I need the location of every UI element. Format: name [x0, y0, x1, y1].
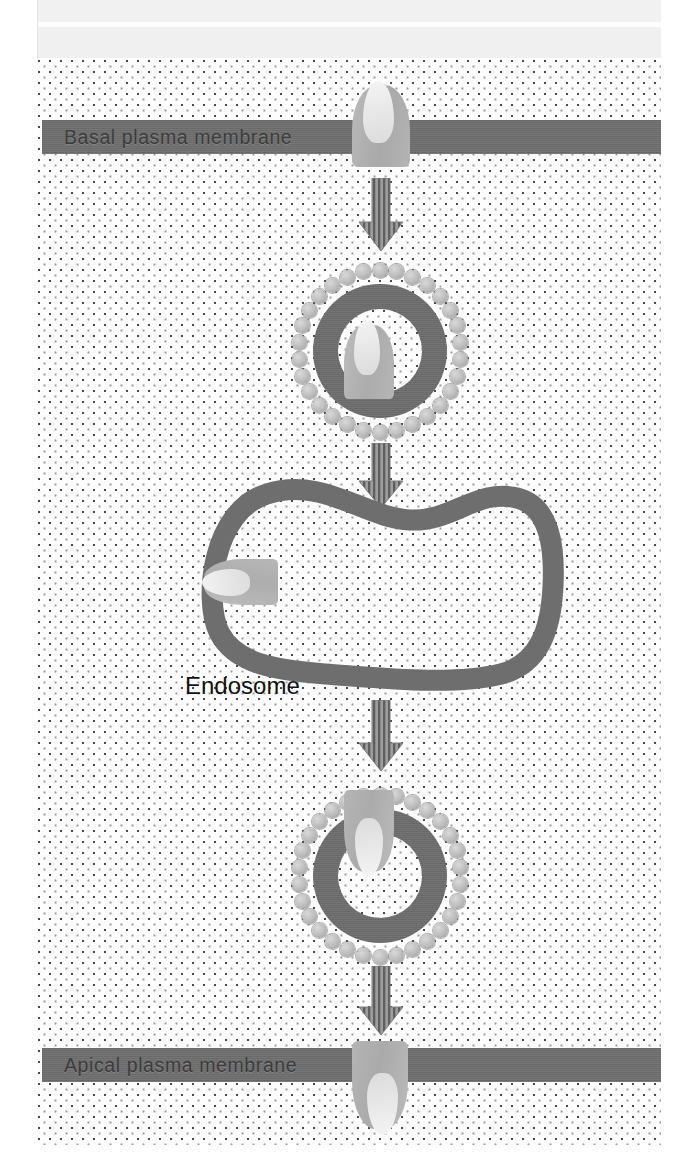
apical-membrane-label: Apical plasma membrane	[64, 1054, 297, 1077]
scan-band-top	[37, 0, 661, 22]
page-edge-line	[37, 0, 38, 60]
arrow-down-1	[358, 178, 404, 252]
receptor-ligand-complex-basal	[352, 85, 410, 167]
receptor-ligand-complex-vesicle-2	[344, 790, 394, 872]
arrow-down-3	[358, 700, 404, 772]
transcytosis-diagram: Basal plasma membrane	[0, 0, 698, 1173]
receptor-ligand-complex-vesicle-1	[344, 325, 394, 399]
basal-membrane-label: Basal plasma membrane	[64, 126, 292, 149]
ligand-icon	[367, 1073, 398, 1135]
arrow-down-4	[358, 966, 404, 1036]
endosome-label: Endosome	[185, 672, 300, 700]
scan-band-lower	[37, 27, 661, 58]
receptor-ligand-complex-endosome	[204, 559, 278, 605]
receptor-ligand-complex-apical	[352, 1041, 408, 1129]
